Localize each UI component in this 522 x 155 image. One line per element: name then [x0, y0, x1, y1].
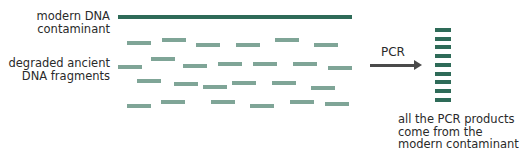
ancient-fragment [236, 43, 260, 47]
ancient-fragment [311, 86, 335, 90]
modern-dna-strand [118, 15, 352, 19]
ancient-fragment [118, 65, 142, 69]
ancient-dna-label-line2: DNA fragments [0, 70, 110, 83]
ancient-fragment [183, 64, 207, 68]
ancient-dna-label: degraded ancient DNA fragments [0, 57, 110, 83]
ancient-fragment [196, 43, 220, 47]
pcr-product [435, 98, 451, 102]
pcr-arrow-icon [414, 60, 422, 70]
ancient-fragment [161, 100, 185, 104]
result-caption: all the PCR products come from the moder… [398, 113, 519, 151]
ancient-fragment [137, 79, 161, 83]
ancient-fragment [325, 102, 349, 106]
ancient-fragment [272, 81, 296, 85]
modern-dna-label: modern DNA contaminant [0, 10, 110, 36]
pcr-product [435, 80, 451, 84]
pcr-arrow-shaft [370, 64, 418, 67]
result-caption-line1: all the PCR products [398, 113, 519, 126]
result-caption-line3: modern contaminant [398, 138, 519, 151]
ancient-fragment [127, 104, 151, 108]
modern-dna-label-line2: contaminant [0, 23, 110, 36]
pcr-product [435, 54, 451, 58]
pcr-product [435, 28, 451, 32]
pcr-product [435, 63, 451, 67]
ancient-fragment [253, 62, 277, 66]
ancient-fragment [127, 41, 151, 45]
ancient-fragment [293, 62, 317, 66]
pcr-product [435, 37, 451, 41]
pcr-product [435, 89, 451, 93]
ancient-fragment [162, 38, 186, 42]
ancient-fragment [218, 62, 242, 66]
ancient-fragment [203, 85, 227, 89]
pcr-label: PCR [381, 45, 405, 59]
ancient-fragment [314, 43, 338, 47]
pcr-product [435, 45, 451, 49]
ancient-fragment [275, 38, 299, 42]
ancient-fragment [250, 104, 274, 108]
ancient-fragment [211, 100, 235, 104]
ancient-fragment [328, 66, 352, 70]
ancient-fragment [290, 100, 314, 104]
ancient-fragment [174, 82, 198, 86]
ancient-fragment [151, 57, 175, 61]
ancient-fragment [232, 81, 256, 85]
pcr-product [435, 72, 451, 76]
